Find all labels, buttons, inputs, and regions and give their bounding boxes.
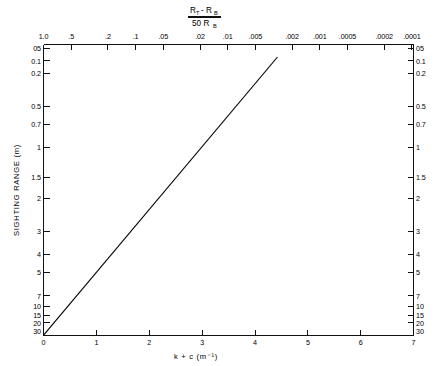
top-tick-label: .05 xyxy=(158,32,168,41)
formula-denominator-sub-b: B xyxy=(213,23,217,29)
y-tick-label: 1.5 xyxy=(31,173,41,182)
right-axis-ticks xyxy=(408,49,414,336)
y-tick-label-right: 7 xyxy=(416,292,420,301)
x-tick-label: 0 xyxy=(42,338,46,347)
y-tick-label-right: 0.2 xyxy=(416,69,426,78)
top-tick-label: .005 xyxy=(249,32,263,41)
top-tick-label: .01 xyxy=(223,32,233,41)
x-tick-label: 4 xyxy=(253,338,257,347)
y-axis-title: SIGHTING RANGE (m) xyxy=(12,144,21,236)
top-axis-tick-labels: 1.0 .5 .2 .1 .05 .02 .01 .005 .002 .001 … xyxy=(39,32,421,41)
y-tick-label-right: 1 xyxy=(416,143,420,152)
y-tick-label: 2 xyxy=(37,194,41,203)
y-tick-label: 10 xyxy=(33,302,41,311)
formula-minus: - R xyxy=(201,6,212,15)
plot-frame xyxy=(44,45,414,336)
top-tick-label: .0005 xyxy=(339,32,357,41)
y-tick-label-right: 5 xyxy=(416,268,420,277)
top-axis-ticks xyxy=(44,45,412,50)
top-axis-formula: R T - R B 50 R B xyxy=(188,6,221,29)
y-tick-label: 30 xyxy=(33,327,41,336)
top-tick-label: .0002 xyxy=(375,32,393,41)
x-tick-label: 2 xyxy=(147,338,151,347)
top-tick-label: 1.0 xyxy=(39,32,49,41)
y-tick-label-right: 2 xyxy=(416,194,420,203)
y-tick-label-right: 0.7 xyxy=(416,120,426,129)
y-tick-label-right: 0.1 xyxy=(416,57,426,66)
x-tick-label: 1 xyxy=(94,338,98,347)
formula-numerator-sub-t: T xyxy=(196,10,200,16)
x-tick-label: 7 xyxy=(412,338,416,347)
top-tick-label: .001 xyxy=(313,32,327,41)
y-tick-label-right: 1.5 xyxy=(416,173,426,182)
x-tick-label: 3 xyxy=(200,338,204,347)
top-tick-label: .002 xyxy=(285,32,299,41)
y-tick-label: 05 xyxy=(33,44,41,53)
y-tick-label-right: 4 xyxy=(416,250,420,259)
y-tick-label-right: 30 xyxy=(416,327,424,336)
y-tick-label: 7 xyxy=(37,292,41,301)
top-tick-label: .02 xyxy=(195,32,205,41)
left-axis-tick-labels: 05 0.1 0.2 0.5 0.7 1 1.5 2 3 4 5 7 10 15… xyxy=(31,44,41,335)
y-tick-label: 5 xyxy=(37,268,41,277)
y-tick-label-right: 0.5 xyxy=(416,102,426,111)
y-tick-label: 0.1 xyxy=(31,57,41,66)
sighting-range-line xyxy=(44,57,278,335)
sighting-range-chart: R T - R B 50 R B xyxy=(0,0,438,366)
formula-denominator: 50 R xyxy=(192,19,209,28)
top-tick-label: .0001 xyxy=(403,32,421,41)
y-tick-label: 0.7 xyxy=(31,120,41,129)
data-series-sighting-range xyxy=(44,57,278,335)
y-tick-label: 3 xyxy=(37,227,41,236)
y-tick-label-right: 10 xyxy=(416,302,424,311)
y-tick-label-right: 05 xyxy=(416,44,424,53)
bottom-axis-tick-labels: 0 1 2 3 4 5 6 7 xyxy=(42,338,416,347)
top-tick-label: .1 xyxy=(133,32,139,41)
x-axis-title: k + c (m⁻¹) xyxy=(174,352,218,361)
y-tick-label: 0.5 xyxy=(31,102,41,111)
right-axis-tick-labels: 05 0.1 0.2 0.5 0.7 1 1.5 2 3 4 5 7 10 15… xyxy=(416,44,426,335)
y-tick-label: 1 xyxy=(37,143,41,152)
left-axis-ticks xyxy=(44,49,50,336)
y-tick-label-right: 3 xyxy=(416,227,420,236)
formula-numerator-sub-b: B xyxy=(214,10,218,16)
chart-page: R T - R B 50 R B xyxy=(0,0,438,366)
x-tick-label: 6 xyxy=(359,338,363,347)
x-tick-label: 5 xyxy=(306,338,310,347)
y-tick-label: 4 xyxy=(37,250,41,259)
top-tick-label: .5 xyxy=(68,32,74,41)
y-tick-label: 0.2 xyxy=(31,69,41,78)
bottom-axis-ticks xyxy=(44,330,414,336)
top-tick-label: .2 xyxy=(105,32,111,41)
